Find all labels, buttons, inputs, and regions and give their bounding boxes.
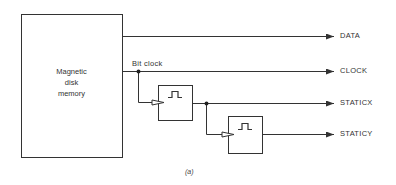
ff1-clock-input-icon [152, 100, 164, 105]
memory-label-line1: Magnetic [21, 66, 122, 77]
clock-output-label: CLOCK [340, 66, 367, 75]
staticy-output-label: STATICY [340, 129, 373, 138]
ff2-pulse-icon [238, 124, 252, 130]
bit-clock-label: Bit clock [132, 59, 163, 68]
ff1-pulse-icon [168, 92, 182, 98]
bit-clock-junction-dot [137, 70, 141, 74]
data-output-label: DATA [340, 31, 360, 40]
ff2-clock-input-icon [222, 132, 234, 137]
memory-block-label: Magnetic disk memory [21, 66, 122, 99]
staticx-junction-dot [205, 102, 209, 106]
staticx-to-ff2-wire [207, 104, 229, 135]
memory-label-line2: disk [21, 77, 122, 88]
bit-clock-to-ff1-wire [139, 72, 159, 103]
memory-label-line3: memory [21, 88, 122, 99]
staticx-output-label: STATICX [340, 98, 373, 107]
figure-caption: (a) [185, 168, 194, 175]
